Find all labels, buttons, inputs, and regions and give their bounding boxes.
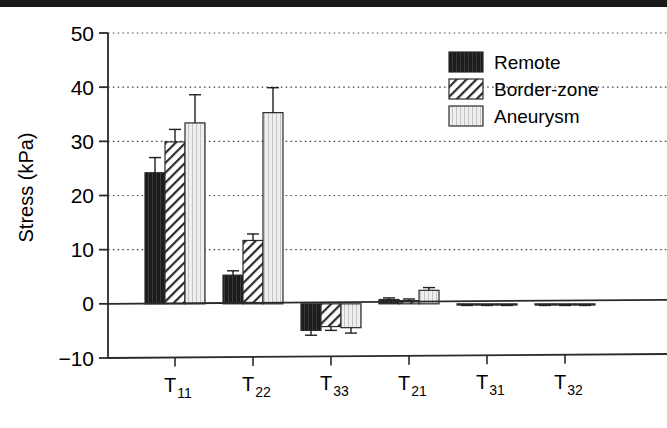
bar-T11-remote — [145, 158, 165, 304]
bar-T31-border-zone — [477, 304, 497, 306]
legend-label: Remote — [494, 52, 561, 73]
y-tick-label: −10 — [58, 347, 94, 370]
x-tick-subscript: 21 — [411, 383, 427, 399]
bar-rect — [341, 304, 361, 328]
bar-T22-remote — [223, 271, 243, 304]
bar-T31-remote — [457, 304, 477, 306]
bar-T32-aneurysm — [575, 304, 595, 306]
x-tick-label: T31 — [476, 371, 505, 398]
bar-rect — [165, 142, 185, 304]
bar-T33-remote — [301, 304, 321, 335]
bar-T21-remote — [379, 298, 399, 304]
x-tick-subscript: 22 — [255, 384, 271, 400]
x-tick-subscript: 33 — [333, 383, 349, 399]
legend-item-remote: Remote — [449, 52, 561, 73]
legend-swatch — [449, 79, 483, 99]
x-tick-subscript: 11 — [177, 385, 192, 401]
y-tick-label: 30 — [71, 130, 94, 153]
x-tick-label: T21 — [398, 372, 427, 399]
y-axis: 50403020100−10 — [58, 22, 108, 370]
x-axis: T11T22T33T21T31T32 — [108, 354, 667, 401]
x-tick-subscript: 31 — [489, 382, 505, 398]
bar-rect — [185, 123, 205, 304]
bar-T32-border-zone — [555, 304, 575, 306]
legend-item-border-zone: Border-zone — [449, 79, 599, 100]
legend-label: Border-zone — [494, 79, 599, 100]
bar-T22-aneurysm — [263, 88, 283, 304]
legend-swatch — [449, 106, 483, 126]
x-tick-label: T11 — [164, 374, 192, 401]
x-tick-label: T33 — [320, 372, 349, 399]
bar-T32-remote — [535, 304, 555, 306]
bar-T22-border-zone — [243, 234, 263, 304]
bar-T11-aneurysm — [185, 95, 205, 304]
y-tick-label: 0 — [82, 292, 94, 315]
bar-T33-aneurysm — [341, 304, 361, 333]
legend-label: Aneurysm — [494, 106, 580, 127]
x-tick-label: T32 — [554, 371, 583, 398]
bar-T11-border-zone — [165, 129, 185, 303]
y-tick-label: 50 — [71, 22, 94, 45]
y-axis-title-text: Stress (kPa) — [15, 132, 37, 242]
bar-rect — [263, 113, 283, 304]
legend-swatch — [449, 52, 483, 72]
figure-container: 50403020100−10 T11T22T33T21T31T32 Remote… — [0, 0, 667, 428]
y-tick-label: 10 — [71, 238, 94, 261]
y-tick-label: 20 — [71, 184, 94, 207]
legend: RemoteBorder-zoneAneurysm — [449, 52, 599, 127]
bar-rect — [223, 275, 243, 304]
y-axis-title: Stress (kPa) — [15, 132, 37, 242]
bar-T33-border-zone — [321, 304, 341, 331]
bar-rect — [243, 240, 263, 303]
x-axis-line — [108, 354, 667, 358]
bar-chart-canvas: 50403020100−10 T11T22T33T21T31T32 Remote… — [0, 0, 667, 428]
bar-T31-aneurysm — [497, 304, 517, 306]
y-tick-label: 40 — [71, 76, 94, 99]
bar-rect — [321, 304, 341, 327]
x-tick-subscript: 32 — [567, 382, 583, 398]
scan-artifact-bar — [0, 0, 667, 7]
bar-rect — [145, 173, 165, 304]
legend-item-aneurysm: Aneurysm — [449, 106, 580, 127]
x-tick-label: T22 — [242, 373, 271, 400]
bar-rect — [301, 304, 321, 331]
